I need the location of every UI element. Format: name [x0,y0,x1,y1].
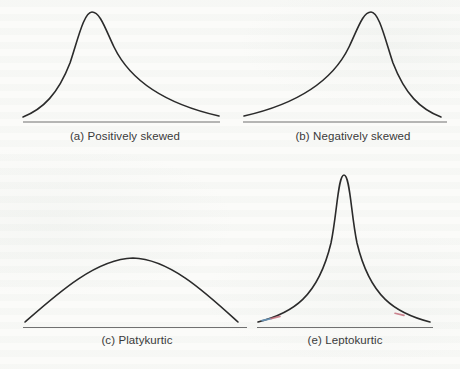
positively-skewed-curve [23,12,219,117]
platykurtic-curve [25,258,238,322]
scan-color-fringe-red-right [395,313,404,315]
caption-platykurtic: (c) Platykurtic [101,334,172,346]
negatively-skewed-curve [244,12,441,117]
caption-leptokurtic: (e) Leptokurtic [307,334,382,346]
scan-color-fringe-blue [262,319,271,321]
scanned-figure-page: (a) Positively skewed (b) Negatively ske… [0,0,460,369]
panel-negatively-skewed [243,12,447,122]
distribution-shapes-figure [0,0,460,369]
caption-positively-skewed: (a) Positively skewed [70,130,180,142]
panel-leptokurtic [257,175,433,328]
caption-negatively-skewed: (b) Negatively skewed [295,130,410,142]
leptokurtic-curve [258,175,430,322]
panel-positively-skewed [23,12,220,122]
panel-platykurtic [23,258,247,328]
